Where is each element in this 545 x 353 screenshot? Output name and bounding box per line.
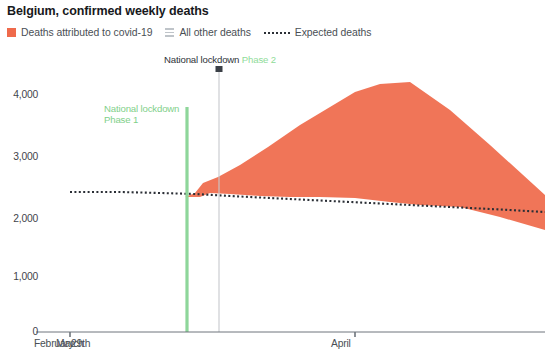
y-tick-label-2000: 2,000 bbox=[0, 213, 38, 224]
y-tick-label-0: 0 bbox=[0, 326, 38, 337]
lockdown-phase2-marker bbox=[216, 66, 223, 72]
y-tick-label-4000: 4,000 bbox=[0, 89, 38, 100]
chart-screenshot: Belgium, confirmed weekly deaths Deaths … bbox=[0, 0, 545, 353]
annotation-phase1-line1: National lockdown bbox=[104, 103, 179, 114]
legend-label-other-deaths: All other deaths bbox=[179, 27, 250, 38]
legend-item-covid-deaths: Deaths attributed to covid-19 bbox=[7, 27, 152, 38]
page-title: Belgium, confirmed weekly deaths bbox=[7, 4, 209, 18]
legend-item-other-deaths: All other deaths bbox=[165, 27, 250, 38]
x-tick-label-april: April bbox=[331, 338, 351, 349]
annotation-phase2-prefix: National lockdown bbox=[164, 54, 239, 65]
orange-square-swatch-icon bbox=[7, 28, 16, 37]
covid-deaths-area-left-tail bbox=[185, 193, 210, 197]
legend-item-expected-deaths: Expected deaths bbox=[264, 27, 372, 38]
hatched-square-swatch-icon bbox=[165, 28, 174, 37]
annotation-lockdown-phase1: National lockdown Phase 1 bbox=[104, 103, 179, 125]
annotation-phase2-emphasis: Phase 2 bbox=[242, 54, 276, 65]
chart-legend: Deaths attributed to covid-19 All other … bbox=[7, 27, 384, 38]
annotation-phase1-line2: Phase 1 bbox=[104, 114, 179, 125]
dotted-line-swatch-icon bbox=[264, 28, 290, 37]
y-tick-label-1000: 1,000 bbox=[0, 271, 38, 282]
chart-plot-area: 4,000 3,000 2,000 1,000 0 February March… bbox=[0, 55, 545, 353]
legend-label-expected-deaths: Expected deaths bbox=[295, 27, 372, 38]
legend-label-covid-deaths: Deaths attributed to covid-19 bbox=[21, 27, 152, 38]
covid-deaths-area bbox=[195, 82, 545, 230]
x-tick-label-29th: 29th bbox=[71, 338, 90, 349]
annotation-lockdown-phase2: National lockdown Phase 2 bbox=[164, 54, 276, 65]
chart-svg bbox=[0, 55, 545, 353]
y-tick-label-3000: 3,000 bbox=[0, 151, 38, 162]
